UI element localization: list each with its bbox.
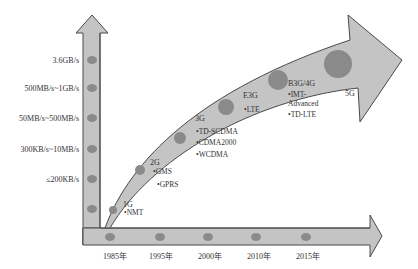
y-label-1: 500MB/s~1GB/s — [24, 84, 79, 93]
tech-gprs: •GPRS — [157, 180, 178, 189]
x-label-4: 2015年 — [296, 251, 320, 261]
y-label-2: 50MB/s~500MB/s — [19, 114, 79, 123]
tech-td-scdma: •TD-SCDMA — [196, 127, 238, 136]
x-label-2: 2000年 — [198, 251, 222, 261]
y-label-3: 300KB/s~10MB/s — [20, 145, 79, 154]
gen-e3g: E3G — [243, 91, 258, 100]
tech-td-lte: •TD-LTE — [288, 110, 317, 119]
x-label-0: 1985年 — [103, 251, 127, 261]
tech-imt: •IMT- — [288, 90, 307, 99]
x-axis-arrow — [83, 215, 382, 257]
tech-lte: •LTE — [244, 105, 260, 114]
x-label-3: 2010年 — [247, 251, 271, 261]
x-label-1: 1995年 — [149, 251, 173, 261]
tech-nmt: •NMT — [124, 208, 144, 217]
mobile-evolution-diagram: 3.6GB/s 500MB/s~1GB/s 50MB/s~500MB/s 300… — [0, 0, 418, 269]
tech-advanced: Advanced — [288, 99, 319, 108]
gen-2g: 2G — [150, 158, 160, 167]
tech-wcdma: •WCDMA — [196, 150, 229, 159]
gen-b3g-4g: B3G/4G — [288, 79, 315, 88]
gen-3g: 3G — [195, 114, 205, 123]
tech-gms: •GMS — [153, 167, 172, 176]
y-label-0: 3.6GB/s — [53, 56, 79, 65]
tech-cdma2000: •CDMA2000 — [196, 138, 236, 147]
gen-5g: 5G — [345, 89, 355, 98]
evolution-curve-arrow — [105, 15, 402, 228]
y-label-4: ≤200KB/s — [46, 175, 79, 184]
